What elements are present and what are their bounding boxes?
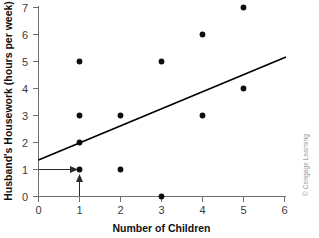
y-tick-label-4: 4 — [22, 83, 28, 95]
x-tick-label-4: 4 — [199, 204, 205, 216]
scatter-plot-figure: 0 1 2 3 4 5 6 7 0 1 2 3 4 5 6 Number of … — [0, 0, 319, 238]
x-axis-title: Number of Children — [112, 222, 210, 234]
data-point — [118, 113, 124, 119]
x-tick-label-3: 3 — [158, 204, 164, 216]
y-tick-label-5: 5 — [22, 56, 28, 68]
data-point — [77, 167, 83, 173]
x-tick-label-5: 5 — [240, 204, 246, 216]
y-tick-label-7: 7 — [22, 2, 28, 14]
vertical-guide-head-icon — [76, 174, 83, 182]
data-point — [241, 5, 247, 11]
y-axis-ticks — [33, 8, 39, 197]
credit-label: © Cengage Learning — [302, 134, 310, 196]
vertical-guide-arrow — [76, 174, 83, 196]
horizontal-guide-arrow — [39, 166, 78, 173]
data-point — [200, 32, 206, 38]
x-tick-label-2: 2 — [117, 204, 123, 216]
regression-line — [39, 57, 287, 160]
chart-canvas: 0 1 2 3 4 5 6 7 0 1 2 3 4 5 6 Number of … — [0, 0, 319, 238]
data-point — [159, 194, 165, 200]
data-point — [77, 140, 83, 146]
data-point — [159, 59, 165, 65]
y-tick-label-3: 3 — [22, 110, 28, 122]
data-point — [77, 59, 83, 65]
y-tick-label-1: 1 — [22, 164, 28, 176]
data-point — [77, 113, 83, 119]
x-tick-label-1: 1 — [76, 204, 82, 216]
x-tick-label-6: 6 — [281, 204, 287, 216]
y-tick-label-0: 0 — [22, 191, 28, 203]
data-point — [200, 113, 206, 119]
y-tick-label-6: 6 — [22, 29, 28, 41]
y-axis-title: Husband's Housework (hours per week) — [2, 1, 14, 201]
y-tick-label-2: 2 — [22, 137, 28, 149]
data-point — [241, 86, 247, 92]
data-point — [118, 167, 124, 173]
data-points-group — [77, 5, 247, 200]
x-tick-label-0: 0 — [35, 204, 41, 216]
